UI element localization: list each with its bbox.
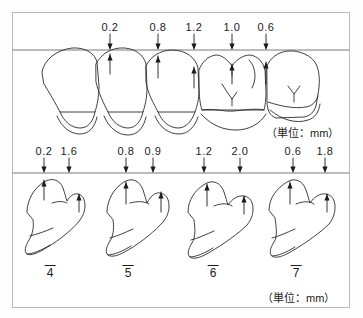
tooth-number-digit-5: 5 [123, 265, 134, 280]
dental-measurement-figure: 0.2 0.8 1.2 1.0 0.6 （単位：mm） 0.2 1.6 0.8 … [0, 0, 363, 318]
lower-measurement-label-2: 1.6 [60, 145, 77, 157]
upper-unit-note: （単位：mm） [266, 124, 339, 140]
lower-measurement-label-7: 0.6 [284, 145, 301, 157]
lower-measurement-label-5: 1.2 [195, 145, 212, 157]
upper-measurement-label-5: 0.6 [257, 21, 274, 33]
tooth-number-label-6: 6 [208, 265, 219, 280]
tooth-number-digit-4: 4 [45, 265, 56, 280]
figure-frame [12, 12, 350, 308]
lower-measurement-label-4: 0.9 [144, 145, 161, 157]
tooth-number-digit-6: 6 [208, 265, 219, 280]
lower-measurement-label-6: 2.0 [231, 145, 248, 157]
lower-measurement-label-8: 1.8 [316, 145, 333, 157]
lower-measurement-label-1: 0.2 [35, 145, 52, 157]
upper-measurement-label-4: 1.0 [223, 21, 240, 33]
upper-measurement-label-2: 0.8 [149, 21, 166, 33]
lower-unit-note: （単位：mm） [262, 289, 335, 305]
upper-measurement-label-1: 0.2 [101, 21, 118, 33]
upper-measurement-label-3: 1.2 [185, 21, 202, 33]
tooth-number-label-7: 7 [291, 265, 302, 280]
tooth-number-digit-7: 7 [291, 265, 302, 280]
tooth-number-label-4: 4 [45, 265, 56, 280]
tooth-number-label-5: 5 [123, 265, 134, 280]
lower-measurement-label-3: 0.8 [117, 145, 134, 157]
